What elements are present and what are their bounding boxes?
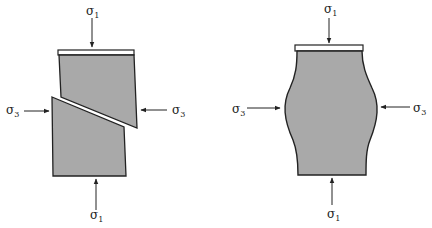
sigma1-top-label: σ1 — [86, 4, 99, 20]
sigma1-bottom-label: σ1 — [90, 208, 103, 224]
brittle-shear-figure: σ1 σ1 σ3 σ3 — [6, 4, 185, 224]
sigma1-bottom-label: σ1 — [327, 207, 340, 223]
ductile-barrel-figure: σ1 σ1 σ3 σ3 — [232, 2, 426, 223]
sigma3-right-label: σ3 — [413, 101, 426, 117]
sigma3-right-label: σ3 — [172, 103, 185, 119]
sigma3-left-label: σ3 — [232, 102, 245, 118]
sigma3-left-label: σ3 — [6, 103, 19, 119]
top-platen — [58, 50, 134, 55]
sigma1-top-label: σ1 — [324, 2, 337, 18]
stress-diagram: σ1 σ1 σ3 σ3 σ1 σ1 σ3 σ3 — [0, 0, 432, 228]
barreled-specimen — [285, 51, 377, 175]
top-platen — [295, 45, 363, 51]
